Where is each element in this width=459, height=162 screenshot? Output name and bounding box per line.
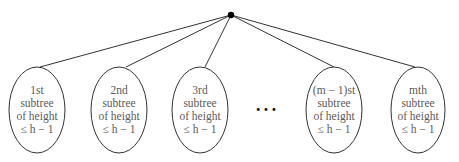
edges xyxy=(40,15,415,67)
subtree-label-word: subtree xyxy=(183,97,216,109)
edge-3 xyxy=(205,15,231,67)
subtree-m-minus-1: (m − 1)st subtree of height ≤ h − 1 xyxy=(306,67,362,153)
subtree-label-ordinal: 3rd xyxy=(192,84,208,96)
subtree-label-bound: ≤ h − 1 xyxy=(184,123,217,135)
subtree-label-ordinal: 1st xyxy=(30,84,44,96)
ellipsis-dots: ••• xyxy=(255,104,279,115)
subtree-m: mth subtree of height ≤ h − 1 xyxy=(391,67,445,153)
subtree-label-bound: ≤ h − 1 xyxy=(21,123,54,135)
subtree-label-height: of height xyxy=(397,110,439,123)
subtree-label-word: subtree xyxy=(317,97,350,109)
subtree-label-height: of height xyxy=(98,110,140,123)
subtree-1: 1st subtree of height ≤ h − 1 xyxy=(9,67,65,153)
subtree-label-ordinal: 2nd xyxy=(110,84,128,96)
subtree-label-word: subtree xyxy=(102,97,135,109)
edge-m-minus-1 xyxy=(231,15,334,67)
subtree-3: 3rd subtree of height ≤ h − 1 xyxy=(172,67,228,153)
subtree-label-ordinal: (m − 1)st xyxy=(313,84,356,97)
edge-m xyxy=(231,15,415,67)
subtree-label-bound: ≤ h − 1 xyxy=(318,123,351,135)
subtree-label-bound: ≤ h − 1 xyxy=(402,123,435,135)
edge-1 xyxy=(40,15,231,67)
subtree-label-bound: ≤ h − 1 xyxy=(103,123,136,135)
root-node xyxy=(228,12,234,18)
subtree-label-ordinal: mth xyxy=(409,84,427,96)
subtree-2: 2nd subtree of height ≤ h − 1 xyxy=(91,67,147,153)
subtree-label-height: of height xyxy=(16,110,58,123)
subtree-label-word: subtree xyxy=(20,97,53,109)
subtree-label-height: of height xyxy=(179,110,221,123)
subtree-label-height: of height xyxy=(313,110,355,123)
edge-2 xyxy=(126,15,231,67)
tree-diagram: 1st subtree of height ≤ h − 1 2nd subtre… xyxy=(0,0,459,162)
subtree-label-word: subtree xyxy=(401,97,434,109)
